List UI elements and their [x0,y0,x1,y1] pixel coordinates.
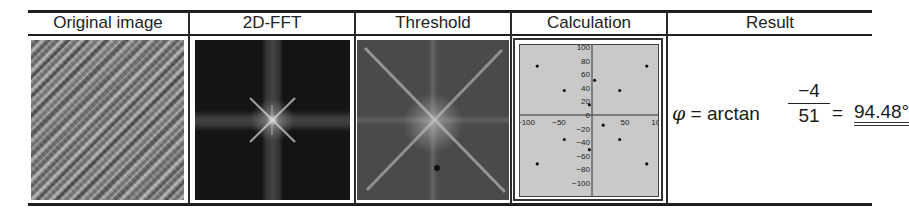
column-divider [188,12,190,204]
svg-text:100: 100 [577,45,591,52]
svg-text:40: 40 [581,84,590,93]
threshold-image [357,40,509,200]
original-image [31,40,184,200]
result-value: 94.48° [854,102,909,126]
numerator: −4 [788,80,830,102]
header-result: Result [668,12,872,34]
equals: = [691,103,702,124]
fft-star-icon [195,40,350,200]
denominator: 51 [788,105,830,127]
fraction-bar [788,103,830,104]
svg-text:60: 60 [581,70,590,79]
svg-text:−20: −20 [576,125,590,134]
svg-text:−80: −80 [576,165,590,174]
column-divider [354,12,356,204]
arctan-label: arctan [707,103,760,124]
svg-text:−100: −100 [572,179,591,188]
svg-text:−100: −100 [520,118,536,127]
svg-text:0: 0 [586,111,591,120]
fraction: −4 51 [788,80,830,127]
svg-text:−40: −40 [576,138,590,147]
column-divider [510,12,512,204]
svg-text:−60: −60 [576,152,590,161]
threshold-x-icon [357,40,509,200]
bottom-rule [28,203,872,206]
header-2d-fft: 2D-FFT [190,12,354,34]
svg-text:50: 50 [621,118,630,127]
svg-text:−50: −50 [552,118,566,127]
scatter-plot: 100806040200−20−40−60−80−100−100−5050100 [519,44,659,197]
calculation-plot-frame: 100806040200−20−40−60−80−100−100−5050100 [513,38,663,201]
header-calculation: Calculation [512,12,666,34]
column-divider [666,12,668,204]
scatter-chart: 100806040200−20−40−60−80−100−100−5050100 [520,45,658,196]
equals-2: = [832,102,843,124]
phi-symbol: φ [672,102,685,124]
result-formula: φ = arctan −4 51 = 94.48° [672,80,872,160]
header-rule [28,34,872,36]
header-threshold: Threshold [356,12,510,34]
svg-text:100: 100 [651,118,658,127]
svg-text:80: 80 [581,57,590,66]
fft-image [195,40,350,200]
header-original-image: Original image [28,12,188,34]
